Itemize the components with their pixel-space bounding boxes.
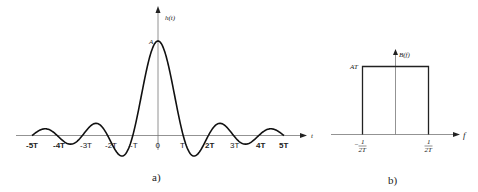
tick-label-5T: 5T	[279, 141, 288, 150]
a-x-axis-arrow-icon	[300, 133, 307, 138]
tick-label-2T: 2T	[205, 141, 214, 150]
tick-label-neg3T: -3T	[80, 141, 92, 150]
tick-label-neg2T: -2T	[105, 141, 117, 150]
figure-a-caption: a)	[152, 171, 161, 184]
tick-label-neg4T: -4T	[53, 141, 65, 150]
left-tick-denominator: 2T	[359, 146, 368, 154]
a-y-axis-arrow-icon	[156, 6, 161, 13]
tick-label-0: 0	[156, 141, 161, 150]
tick-label-neg5T: -5T	[26, 141, 38, 150]
a-peak-label: A	[148, 38, 154, 46]
b-y-axis-arrow-icon	[393, 49, 398, 55]
figure-b-rect-spectrum: B(f) f AT − 1 2T 1 2T b)	[331, 49, 467, 187]
a-y-axis-label: h(t)	[165, 14, 176, 22]
b-right-tick-label: 1 2T	[425, 138, 434, 154]
tick-label-3T: 3T	[230, 141, 239, 150]
b-x-axis-label: f	[463, 130, 467, 140]
tick-label-negT: -T	[130, 141, 138, 150]
b-x-axis-arrow-icon	[453, 132, 460, 137]
figure-b-caption: b)	[388, 174, 398, 187]
right-tick-numerator: 1	[427, 138, 431, 146]
a-x-axis-label: t	[311, 132, 314, 140]
b-left-tick-label: − 1 2T	[354, 138, 367, 154]
tick-label-4T: 4T	[256, 141, 265, 150]
left-tick-numerator: 1	[361, 138, 365, 146]
b-level-label: AT	[349, 63, 359, 71]
b-y-axis-label: B(f)	[399, 51, 411, 59]
figure-a-sinc-plot: h(t) t A -5T -4T -3T -2T -T 0 T 2T 3T 4T…	[16, 6, 314, 184]
tick-label-T: T	[180, 141, 185, 150]
right-tick-denominator: 2T	[425, 146, 434, 154]
